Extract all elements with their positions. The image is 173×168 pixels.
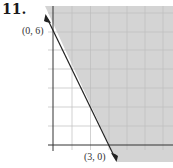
point-label-0-6: (0, 6) — [22, 25, 44, 37]
point-label-3-0: (3, 0) — [84, 151, 106, 163]
inequality-graph: (0, 6) (3, 0) — [0, 0, 173, 168]
